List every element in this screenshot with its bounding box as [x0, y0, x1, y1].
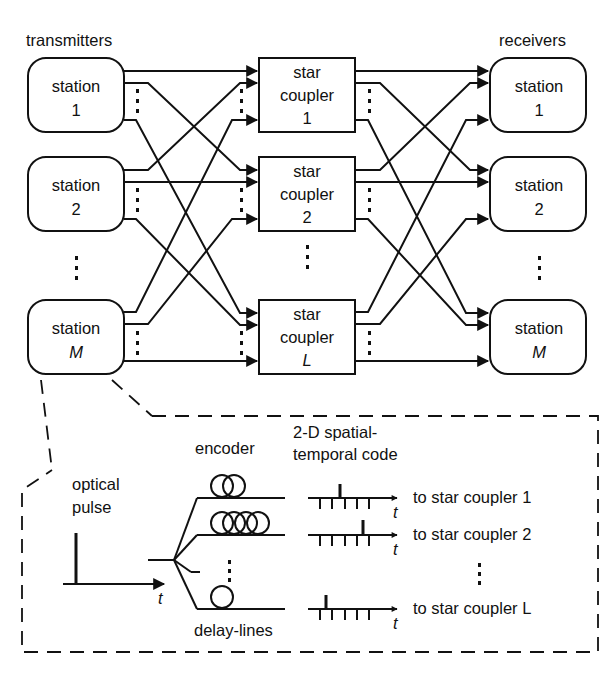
delay-lines-label: delay-lines [194, 621, 273, 639]
output-label-1: to star coupler 1 [413, 488, 531, 506]
receiver-station-2: station 2 [490, 157, 586, 231]
time-axis-label: t [393, 540, 399, 558]
code-label-line2: temporal code [293, 445, 398, 463]
station-number: 1 [71, 101, 80, 119]
output-label-2: to star coupler 2 [413, 525, 531, 543]
time-axis-label: t [158, 589, 164, 607]
receivers-heading: receivers [499, 31, 566, 49]
optical-pulse-plot: optical pulse t [63, 475, 164, 607]
star-coupler-2: star coupler 2 [259, 157, 355, 231]
delay-coil-branch-1 [211, 475, 245, 497]
coupler-to-rx-links [355, 71, 488, 361]
delay-coil-branch-2 [211, 512, 269, 534]
station-number: M [532, 343, 546, 361]
coupler-label-line2: coupler [280, 86, 335, 104]
output-label-l: to star coupler L [413, 599, 531, 617]
receiver-station-m: station M [490, 300, 586, 374]
spatial-temporal-code: 2-D spatial- temporal code t to star cou… [293, 423, 531, 632]
station-number: 1 [534, 101, 543, 119]
code-train-2: t to star coupler 2 [308, 520, 531, 558]
station-label: station [515, 176, 564, 194]
station-number: 2 [71, 200, 80, 218]
transmitters-heading: transmitters [26, 31, 112, 49]
coupler-number: 2 [302, 208, 311, 226]
code-train-1: t to star coupler 1 [308, 484, 531, 521]
optical-pulse-label-line2: pulse [72, 498, 111, 516]
coupler-label-line2: coupler [280, 328, 335, 346]
time-axis-label: t [393, 503, 399, 521]
station-label: station [515, 319, 564, 337]
coupler-label-line1: star [293, 162, 321, 180]
code-train-l: t to star coupler L [308, 595, 531, 632]
station-number: M [69, 343, 83, 361]
code-label-line1: 2-D spatial- [293, 423, 377, 441]
time-axis-label: t [393, 614, 399, 632]
optical-cdma-network-diagram: transmitters receivers [0, 0, 614, 679]
coupler-label-line2: coupler [280, 185, 335, 203]
coupler-label-line1: star [293, 63, 321, 81]
star-coupler-1: star coupler 1 [259, 58, 355, 132]
coupler-label-line1: star [293, 305, 321, 323]
coupler-number: 1 [302, 109, 311, 127]
receiver-station-1: station 1 [490, 58, 586, 132]
station-label: station [515, 77, 564, 95]
transmitter-station-m: station M [28, 300, 124, 374]
encoder: encoder delay-lines [148, 439, 285, 639]
station-label: station [52, 176, 101, 194]
transmitter-station-2: station 2 [28, 157, 124, 231]
station-number: 2 [534, 200, 543, 218]
delay-coil-branch-l [211, 586, 233, 608]
optical-pulse-label-line1: optical [72, 475, 120, 493]
star-coupler-l: star coupler L [259, 300, 355, 374]
coupler-number: L [302, 351, 311, 369]
transmitter-station-1: station 1 [28, 58, 124, 132]
encoder-label: encoder [195, 439, 255, 457]
station-label: station [52, 319, 101, 337]
station-label: station [52, 77, 101, 95]
tx-to-coupler-links [124, 71, 257, 361]
